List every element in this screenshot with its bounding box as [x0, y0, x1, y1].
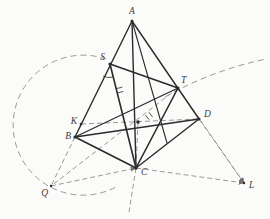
figure-edges	[75, 21, 199, 168]
edge-S-T	[110, 64, 178, 88]
point-A	[131, 20, 134, 23]
point-K	[80, 123, 83, 126]
point-label-K: K	[70, 116, 78, 126]
point-D	[197, 117, 200, 120]
point-M	[136, 120, 140, 124]
tick-mark-1-stroke-1	[118, 91, 124, 92]
edge-A-D	[132, 21, 199, 119]
point-label-C: C	[141, 167, 148, 177]
point-Q	[50, 185, 52, 187]
point-label-D: D	[203, 109, 211, 119]
dashed-line-C-Cx	[129, 168, 136, 212]
tick-mark-2-stroke-1	[145, 115, 149, 120]
tick-mark-1-stroke-0	[117, 87, 123, 88]
construction-lines	[51, 88, 244, 212]
geometry-canvas: ASTKBDCQL	[0, 0, 270, 219]
point-label-S: S	[100, 52, 105, 62]
edge-S-C	[110, 64, 136, 168]
dashed-line-C-L	[136, 168, 244, 183]
tick-mark-2-stroke-0	[149, 112, 153, 117]
point-label-B: B	[65, 131, 71, 141]
geometry-figure: ASTKBDCQL	[0, 0, 270, 219]
edge-A-C	[132, 21, 136, 168]
point-label-Q: Q	[41, 188, 48, 198]
compass-arcs	[13, 55, 266, 195]
edge-B-C	[75, 137, 136, 168]
point-B	[73, 135, 76, 138]
point-S	[108, 62, 111, 65]
point-label-A: A	[128, 6, 135, 16]
dashed-line-Q-C	[51, 168, 136, 186]
point-label-T: T	[181, 75, 187, 85]
edge-T-C	[136, 88, 178, 168]
dashed-line-B-Q	[51, 137, 75, 186]
point-L	[243, 182, 245, 184]
point-label-L: L	[248, 180, 254, 190]
point-T	[176, 86, 179, 89]
point-C	[134, 166, 137, 169]
